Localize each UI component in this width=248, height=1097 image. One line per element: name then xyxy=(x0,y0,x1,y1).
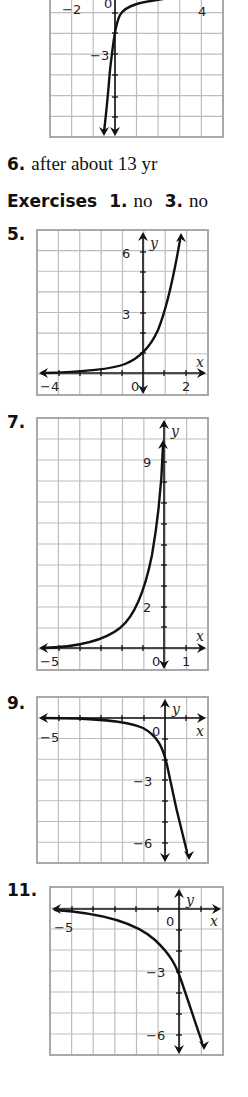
axis-label-y: y xyxy=(149,235,159,251)
function-curve xyxy=(42,240,180,373)
axis-label-y: y xyxy=(185,892,195,908)
curve-arrow xyxy=(184,851,194,860)
tick-label: 0 xyxy=(104,0,112,11)
tick-label: 4 xyxy=(198,4,206,19)
tick-label: −3 xyxy=(146,965,165,980)
tick-label: 6 xyxy=(122,246,130,261)
axis-label-x: x xyxy=(210,913,218,929)
tick-label: −5 xyxy=(54,920,73,935)
tick-label: −5 xyxy=(40,654,59,669)
axis-label-x: x xyxy=(196,628,204,644)
curve-arrow xyxy=(199,1041,209,1050)
graph-top: −204−3 xyxy=(50,0,223,137)
grid xyxy=(50,0,223,137)
tick-label: 3 xyxy=(122,307,130,322)
graph-7: 92−501yx xyxy=(37,418,208,670)
tick-label: 2 xyxy=(143,600,151,615)
tick-label: 0 xyxy=(131,379,139,394)
tick-label: −6 xyxy=(133,836,152,851)
graph-5: 63−402yx xyxy=(37,230,208,395)
tick-label: 9 xyxy=(143,455,151,470)
tick-label: 0 xyxy=(166,914,174,929)
axis-label-x: x xyxy=(196,354,204,370)
graphs-layer: −204−363−402yx92−501yx−50−3−6yx−50−3−6yx xyxy=(0,0,248,1097)
tick-label: −5 xyxy=(40,730,59,745)
graph-11: −50−3−6yx xyxy=(50,887,223,1055)
axis-label-x: x xyxy=(196,723,204,739)
graph-9: −50−3−6yx xyxy=(37,697,208,863)
tick-label: −3 xyxy=(90,48,109,63)
tick-label: 2 xyxy=(182,379,190,394)
function-curve xyxy=(42,445,163,648)
axis-label-y: y xyxy=(170,423,180,439)
tick-label: 0 xyxy=(152,654,160,669)
tick-label: −6 xyxy=(146,1028,165,1043)
axis-label-y: y xyxy=(171,701,181,717)
tick-label: 1 xyxy=(182,654,190,669)
grid xyxy=(37,418,208,670)
tick-label: −4 xyxy=(40,379,59,394)
tick-label: −3 xyxy=(133,774,152,789)
tick-label: −2 xyxy=(62,2,81,17)
